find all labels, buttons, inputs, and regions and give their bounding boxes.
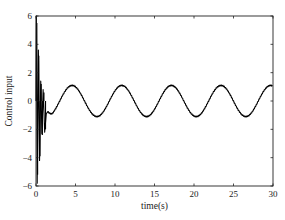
y-axis-label: Control input	[4, 75, 14, 126]
y-tick-label: −4	[22, 153, 32, 163]
x-tick-label: 30	[269, 189, 279, 199]
x-axis-label: time(s)	[141, 201, 168, 212]
x-tick-label: 5	[73, 189, 78, 199]
y-tick-label: 6	[28, 11, 33, 21]
y-tick-label: 0	[28, 96, 33, 106]
x-tick-label: 10	[111, 189, 121, 199]
x-tick-label: 20	[190, 189, 200, 199]
x-tick-label: 15	[150, 189, 160, 199]
y-tick-label: −6	[22, 181, 32, 191]
chart: 051015202530 −6−4−20246 time(s) Control …	[0, 0, 285, 220]
y-tick-label: −2	[22, 124, 32, 134]
x-tick-label: 0	[34, 189, 39, 199]
x-tick-label: 25	[229, 189, 239, 199]
y-tick-label: 4	[28, 39, 33, 49]
y-tick-label: 2	[28, 68, 33, 78]
